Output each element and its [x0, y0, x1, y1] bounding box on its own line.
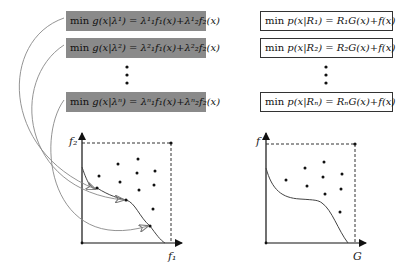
- diagram-graphics: [0, 0, 398, 270]
- mapping-arc-1: [19, 18, 95, 189]
- right-y-axis-label: f: [256, 135, 260, 148]
- left-objective-space-plot: [19, 18, 182, 244]
- solution-points: [285, 161, 344, 214]
- pareto-front: [82, 167, 165, 243]
- ellipsis-dots-right: [324, 65, 327, 84]
- ellipsis-dots-left: [125, 65, 128, 84]
- nadir-point: [169, 141, 172, 144]
- pareto-front: [266, 168, 348, 243]
- left-x-axis-label: f₁: [168, 250, 176, 263]
- right-objective-space-plot: [265, 133, 366, 244]
- right-x-axis-label: G: [353, 250, 362, 263]
- left-y-axis-label: f₂: [69, 135, 77, 148]
- solution-points: [98, 158, 157, 211]
- mapping-arc-2: [32, 45, 124, 200]
- mapping-arc-n: [51, 100, 148, 231]
- nadir-point: [353, 142, 356, 145]
